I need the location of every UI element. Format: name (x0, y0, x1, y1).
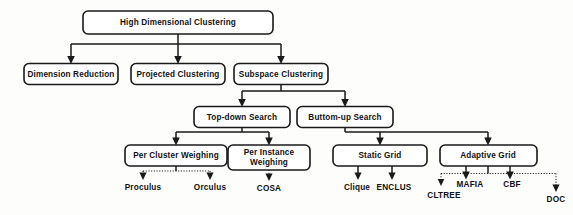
leaf-cosa: COSA (257, 184, 281, 193)
node-subspace-clustering-label: Subspace Clustering (239, 70, 323, 79)
arrowhead-cosa (265, 174, 272, 182)
node-adaptive-grid-label: Adaptive Grid (460, 151, 516, 160)
edges-perinstance-to-leaves (265, 170, 272, 181)
arrowhead-proculus (139, 173, 146, 181)
leaf-cltree: CLTREE (427, 191, 461, 200)
arrowhead-cbf (506, 172, 514, 180)
taxonomy-tree-diagram: High Dimensional Clustering Dimension Re… (0, 0, 573, 215)
node-root-label: High Dimensional Clustering (120, 18, 236, 27)
edges-percluster-to-leaves (139, 166, 213, 180)
edges-staticgrid-to-leaves (354, 166, 395, 180)
arrowhead-mafia (462, 172, 470, 180)
node-subspace-clustering[interactable]: Subspace Clustering (234, 64, 328, 85)
edges-topdown-to-level4 (172, 127, 273, 146)
node-projected-clustering[interactable]: Projected Clustering (131, 64, 225, 85)
leaf-doc: DOC (547, 195, 566, 204)
node-per-cluster-weighing-label: Per Cluster Weighing (133, 151, 219, 160)
arrowhead-orculus (206, 173, 213, 181)
node-adaptive-grid[interactable]: Adaptive Grid (440, 145, 537, 166)
node-dimension-reduction[interactable]: Dimension Reduction (24, 64, 118, 85)
node-bottomup-search-label: Buttom-up Search (308, 113, 381, 122)
arrowhead-enclus (388, 173, 395, 181)
node-topdown-search[interactable]: Top-down Search (194, 107, 290, 128)
edges-subspace-to-level3 (238, 84, 349, 107)
node-projected-clustering-label: Projected Clustering (136, 70, 219, 79)
node-per-instance-weighing[interactable]: Per Instance Weighing (228, 145, 310, 170)
diagram-canvas: High Dimensional Clustering Dimension Re… (0, 0, 573, 215)
node-static-grid[interactable]: Static Grid (333, 145, 427, 166)
leaf-mafia: MAFIA (457, 180, 484, 189)
leaf-proculus: Proculus (125, 183, 162, 192)
leaf-clique: Clique (344, 183, 370, 192)
node-bottomup-search[interactable]: Buttom-up Search (297, 107, 393, 128)
node-per-instance-weighing-label-line1: Per Instance (244, 148, 295, 157)
node-per-cluster-weighing[interactable]: Per Cluster Weighing (125, 145, 227, 166)
node-root[interactable]: High Dimensional Clustering (83, 11, 273, 34)
node-static-grid-label: Static Grid (358, 151, 401, 160)
edges-root-to-level2 (67, 34, 285, 64)
arrowhead-doc (552, 185, 559, 193)
leaf-cbf: CBF (503, 180, 520, 189)
node-per-instance-weighing-label-line2: Weighing (250, 158, 288, 167)
leaf-orculus: Orculus (194, 183, 227, 192)
arrowhead-cltree (438, 179, 445, 186)
arrowhead-clique (354, 173, 361, 181)
node-topdown-search-label: Top-down Search (207, 113, 277, 122)
edges-bottomup-to-level4 (345, 127, 492, 146)
leaf-enclus: ENCLUS (377, 183, 412, 192)
node-dimension-reduction-label: Dimension Reduction (27, 70, 114, 79)
